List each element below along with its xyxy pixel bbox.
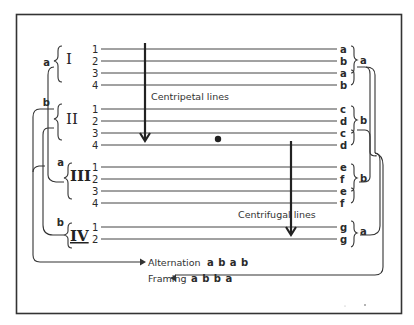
line-number: 2 — [92, 234, 98, 245]
centripetal-label: Centripetal lines — [151, 91, 229, 102]
line-number: 1 — [92, 104, 98, 115]
centrifugal-label: Centrifugal lines — [238, 209, 316, 220]
group-1-left-label: a — [43, 57, 50, 68]
rhyme-letter: b — [340, 80, 347, 91]
group-1-brace — [54, 46, 62, 82]
rhyme-letter: f — [340, 174, 345, 185]
rhyme-letter: e — [340, 162, 347, 173]
line-number: 4 — [92, 198, 98, 209]
line-number: 3 — [92, 186, 98, 197]
group-3-roman: III — [70, 167, 91, 185]
rhyme-letter: f — [340, 198, 345, 209]
rhyme-letter: c — [340, 104, 346, 115]
rhyme-letter: d — [340, 116, 347, 127]
rhyme-scheme-diagram: a I 1 2 3 4 a b a b a b II 1 2 3 4 c d c… — [0, 0, 414, 325]
rhyme-letter: g — [340, 222, 347, 233]
group-3-left-label: a — [57, 157, 64, 168]
group-2: b II 1 2 3 4 c d c d b — [43, 97, 367, 151]
line-number: 2 — [92, 56, 98, 67]
line-number: 3 — [92, 68, 98, 79]
group-3: a III 1 2 3 4 e f e f b — [57, 157, 367, 209]
alternation-label: Alternation — [148, 257, 201, 268]
rhyme-letter: d — [340, 140, 347, 151]
rhyme-letter: g — [340, 234, 347, 245]
alternation-arrowhead — [140, 259, 146, 266]
line-number: 2 — [92, 116, 98, 127]
rhyme-letter: b — [340, 56, 347, 67]
group-1-right-label: a — [360, 55, 367, 66]
rhyme-letter: e — [340, 186, 347, 197]
line-number: 1 — [92, 222, 98, 233]
group-4-left-label: b — [57, 217, 64, 228]
framing-label: Framing — [148, 273, 186, 284]
line-number: 1 — [92, 162, 98, 173]
group-2-roman: II — [66, 110, 78, 128]
line-number: 4 — [92, 80, 98, 91]
rhyme-letter: a — [340, 68, 347, 79]
rhyme-letter: a — [340, 44, 347, 55]
line-number: 3 — [92, 128, 98, 139]
group-4: b IV 1 2 g g a — [57, 217, 367, 248]
rhyme-letter: c — [340, 128, 346, 139]
group-2-right-label: b — [360, 115, 367, 126]
line-number: 4 — [92, 140, 98, 151]
center-dot — [215, 136, 221, 142]
group-1: a I 1 2 3 4 a b a b a — [43, 44, 367, 91]
group-1-roman: I — [66, 50, 72, 68]
line-number: 2 — [92, 174, 98, 185]
framing-pattern: a b b a — [191, 273, 233, 284]
group-2-left-label: b — [43, 97, 50, 108]
alternation-pattern: a b a b — [207, 257, 249, 268]
group-4-roman: IV — [70, 227, 89, 245]
line-number: 1 — [92, 44, 98, 55]
